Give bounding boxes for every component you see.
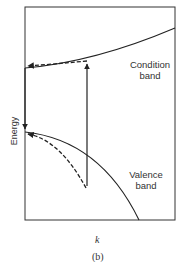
band-diagram (0, 0, 176, 262)
conduction-band-label-line2: band (124, 70, 176, 81)
figure-caption: (b) (92, 251, 104, 262)
y-axis-label: Energy (9, 111, 19, 151)
x-axis-label: k (95, 234, 99, 245)
valence-band-label: Valence band (120, 169, 172, 191)
conduction-band-label: Condition band (124, 59, 176, 81)
valence-band-label-line1: Valence (120, 169, 172, 180)
conduction-band-label-line1: Condition (124, 59, 176, 70)
valence-band-label-line2: band (120, 180, 172, 191)
valence-relaxation-dashed-arrow (28, 134, 86, 188)
